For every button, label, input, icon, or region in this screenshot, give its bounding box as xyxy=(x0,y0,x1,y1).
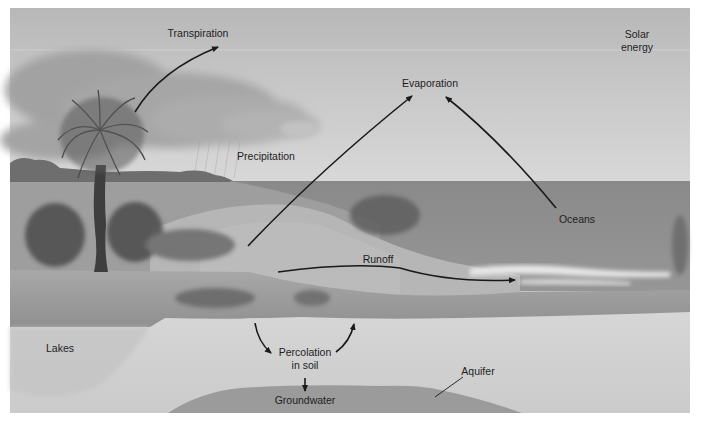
label-percolation-line2: in soil xyxy=(292,359,319,372)
label-solar-energy-line2: energy xyxy=(621,41,653,54)
label-solar-energy-line1: Solar xyxy=(625,28,650,41)
water-cycle-diagram xyxy=(0,0,701,423)
label-runoff: Runoff xyxy=(363,253,394,266)
label-aquifer: Aquifer xyxy=(461,365,494,378)
label-transpiration: Transpiration xyxy=(168,27,229,40)
label-groundwater: Groundwater xyxy=(275,394,336,407)
label-precipitation: Precipitation xyxy=(237,150,295,163)
label-lakes: Lakes xyxy=(46,342,74,355)
label-percolation-line1: Percolation xyxy=(279,346,332,359)
label-oceans: Oceans xyxy=(559,213,595,226)
label-evaporation: Evaporation xyxy=(402,77,458,90)
